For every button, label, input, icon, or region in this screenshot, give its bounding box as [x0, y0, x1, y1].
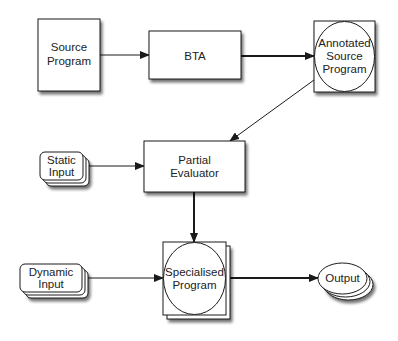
bta-label: BTA — [184, 50, 206, 62]
annotated-label-line1: Annotated — [318, 37, 370, 49]
partial-evaluator-label-line2: Evaluator — [170, 167, 219, 179]
specialised-program-label-line1: Specialised — [165, 266, 224, 278]
partial-evaluation-diagram: Source Program BTA Annotated Source Prog… — [0, 0, 398, 341]
static-input-label-line2: Input — [49, 166, 75, 178]
source-program-label-line1: Source — [51, 41, 87, 53]
source-program-label-line2: Program — [47, 55, 91, 67]
node-source-program: Source Program — [38, 19, 100, 91]
partial-evaluator-label-line1: Partial — [178, 154, 211, 166]
annotated-label-line2: Source — [326, 50, 362, 62]
edge-annotated-to-partial-evaluator — [230, 80, 314, 141]
node-dynamic-input: Dynamic Input — [20, 264, 88, 298]
output-label: Output — [325, 272, 360, 284]
annotated-label-line3: Program — [322, 63, 366, 75]
node-static-input: Static Input — [40, 152, 89, 186]
node-partial-evaluator: Partial Evaluator — [144, 141, 245, 192]
dynamic-input-label-line2: Input — [38, 278, 64, 290]
node-bta: BTA — [149, 31, 241, 79]
node-specialised-program: Specialised Program — [163, 242, 230, 319]
static-input-label-line1: Static — [47, 154, 76, 166]
node-output: Output — [318, 263, 373, 300]
specialised-program-label-line2: Program — [172, 279, 216, 291]
node-annotated-source-program: Annotated Source Program — [314, 21, 375, 92]
dynamic-input-label-line1: Dynamic — [29, 266, 74, 278]
